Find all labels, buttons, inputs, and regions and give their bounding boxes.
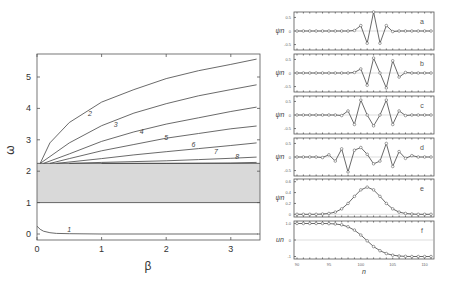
- x-tick-label: 1: [99, 244, 104, 254]
- data-point: [391, 254, 394, 257]
- data-point: [321, 156, 324, 159]
- data-point: [430, 114, 433, 117]
- data-point: [315, 72, 318, 75]
- data-point: [334, 160, 337, 163]
- mode-profiles: 0.50-0.5aψn0.50-0.5bψn0.50-0.5cψn0.50-0.…: [276, 11, 435, 267]
- data-point: [360, 189, 363, 192]
- data-point: [315, 114, 318, 117]
- data-point: [347, 225, 350, 228]
- data-point: [417, 114, 420, 117]
- data-point: [423, 114, 426, 117]
- data-point: [404, 114, 407, 117]
- data-point: [334, 72, 337, 75]
- data-point: [417, 30, 420, 33]
- data-point: [372, 245, 375, 248]
- data-point: [302, 30, 305, 33]
- data-point: [385, 24, 388, 27]
- data-point: [417, 72, 420, 75]
- data-point: [353, 149, 356, 152]
- data-point: [411, 154, 414, 157]
- data-point: [321, 213, 324, 216]
- data-point: [321, 30, 324, 33]
- panel-label: b: [420, 60, 424, 67]
- panel-frame: [294, 179, 434, 217]
- panel-a: 0.50-0.5aψn: [276, 11, 435, 50]
- data-point: [340, 114, 343, 117]
- data-point: [423, 72, 426, 75]
- data-point: [308, 213, 311, 216]
- data-point: [385, 87, 388, 90]
- data-point: [398, 30, 401, 33]
- data-point: [385, 252, 388, 255]
- data-point: [296, 222, 299, 225]
- data-point: [334, 30, 337, 33]
- y-tick-label: 0.5: [285, 57, 291, 62]
- data-point: [423, 213, 426, 216]
- y-tick-label: 4: [26, 103, 31, 113]
- curve-label: 5: [164, 134, 168, 141]
- data-point: [328, 222, 331, 225]
- y-tick-label: 0.5: [285, 99, 291, 104]
- y-axis-label: ω: [3, 145, 17, 154]
- data-point: [321, 114, 324, 117]
- panel-label: f: [421, 227, 423, 234]
- data-point: [328, 72, 331, 75]
- y-tick-label: 0.5: [285, 141, 291, 146]
- y-tick-label: 0: [289, 71, 292, 76]
- plot-frame: [37, 54, 260, 240]
- data-point: [360, 146, 363, 149]
- data-point: [430, 72, 433, 75]
- data-point: [404, 30, 407, 33]
- data-point: [398, 211, 401, 214]
- data-point: [296, 114, 299, 117]
- panel-label: c: [420, 102, 424, 109]
- x-tick-label: 0: [34, 244, 39, 254]
- data-point: [366, 42, 369, 45]
- curve-2: [40, 59, 256, 163]
- data-point: [423, 255, 426, 258]
- panel-c: 0.50-0.5cψn: [276, 96, 435, 134]
- x-tick-label: 110: [421, 262, 428, 267]
- data-point: [353, 229, 356, 232]
- data-point: [353, 123, 356, 126]
- data-point: [404, 71, 407, 74]
- y-tick-label: 0: [289, 29, 292, 34]
- y-axis-label: un: [276, 236, 284, 243]
- data-point: [398, 110, 401, 113]
- data-point: [366, 153, 369, 156]
- x-tick-label: 2: [164, 244, 169, 254]
- data-point: [296, 156, 299, 159]
- curve-label: 3: [114, 121, 118, 128]
- y-axis-label: ψn: [276, 69, 285, 77]
- data-point: [366, 114, 369, 117]
- data-point: [334, 211, 337, 214]
- data-point: [430, 255, 433, 258]
- data-point: [360, 99, 363, 102]
- y-tick-label: 0: [26, 229, 31, 239]
- data-point: [328, 154, 331, 157]
- curve-label: 7: [214, 148, 219, 155]
- y-axis-label: ψn: [276, 194, 285, 202]
- data-point: [411, 30, 414, 33]
- data-point: [353, 71, 356, 74]
- panel-label: a: [420, 18, 424, 25]
- data-point: [366, 84, 369, 87]
- y-axis-label: ψn: [276, 153, 285, 161]
- data-point: [391, 208, 394, 211]
- curve-7: [69, 157, 256, 163]
- data-point: [391, 30, 394, 33]
- data-point: [379, 195, 382, 198]
- y-tick-label: 0.2: [285, 201, 291, 206]
- data-point: [385, 142, 388, 145]
- data-point: [347, 202, 350, 205]
- panel-e: 0.60.40.20eψn: [276, 179, 435, 217]
- y-tick-label: 0: [289, 113, 292, 118]
- data-point: [334, 114, 337, 117]
- curve-3: [40, 85, 256, 164]
- data-point: [308, 72, 311, 75]
- data-point: [296, 213, 299, 216]
- data-point: [372, 57, 375, 60]
- data-point: [328, 114, 331, 117]
- data-point: [366, 240, 369, 243]
- data-point: [372, 125, 375, 128]
